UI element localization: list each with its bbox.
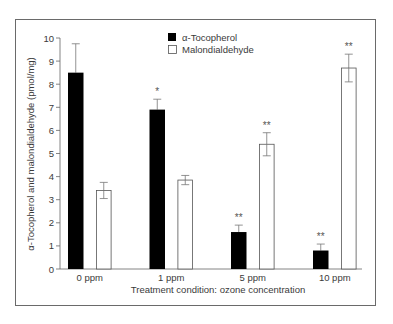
y-tick-label: 0 <box>49 264 54 275</box>
x-category-label: 1 ppm <box>158 272 184 283</box>
bar-malondialdehyde <box>341 68 356 269</box>
y-tick-label: 5 <box>49 148 54 159</box>
bar-malondialdehyde <box>178 180 193 269</box>
legend: α-Tocopherol Malondialdehyde <box>168 32 254 55</box>
significance-marker: * <box>155 86 159 97</box>
y-tick-label: 4 <box>49 171 54 182</box>
y-tick-label: 9 <box>49 56 54 67</box>
x-category-label: 10 ppm <box>319 272 351 283</box>
legend-label-tocopherol: α-Tocopherol <box>182 32 237 43</box>
x-category-label: 5 ppm <box>240 272 266 283</box>
bar-tocopherol <box>313 251 329 269</box>
significance-marker: ** <box>345 41 353 52</box>
legend-label-malondialdehyde: Malondialdehyde <box>182 44 254 55</box>
y-tick-label: 6 <box>49 125 54 136</box>
bar-tocopherol <box>150 110 166 269</box>
bar-tocopherol <box>231 232 247 269</box>
y-tick-label: 1 <box>49 240 54 251</box>
y-tick-label: 2 <box>49 217 54 228</box>
significance-marker: ** <box>235 212 243 223</box>
y-axis: 012345678910 <box>43 33 362 275</box>
y-tick-label: 7 <box>49 102 54 113</box>
x-axis-title: Treatment condition: ozone concentration <box>131 284 305 295</box>
x-axis-labels: 0 ppm1 ppm5 ppm10 ppm <box>77 272 351 283</box>
x-category-label: 0 ppm <box>77 272 103 283</box>
y-tick-label: 3 <box>49 194 54 205</box>
legend-swatch-malondialdehyde <box>169 46 177 54</box>
bar-malondialdehyde <box>259 144 274 269</box>
y-tick-label: 8 <box>49 79 54 90</box>
y-axis-title: α-Tocopherol and malondialdehyde (pmol/m… <box>25 57 36 250</box>
significance-marker: ** <box>317 231 325 242</box>
bar-tocopherol <box>68 73 84 269</box>
bar-chart: 012345678910 ********* 0 ppm1 ppm5 ppm10… <box>0 0 393 324</box>
significance-marker: ** <box>263 120 271 131</box>
bar-malondialdehyde <box>96 190 111 269</box>
bars: ********* <box>68 41 356 269</box>
y-tick-label: 10 <box>43 33 54 44</box>
legend-swatch-tocopherol <box>168 33 176 41</box>
